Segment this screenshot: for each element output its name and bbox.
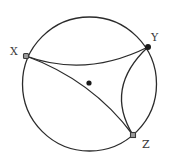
vertex-label-z: Z: [142, 138, 150, 151]
vertex-y-marker: [145, 44, 151, 50]
vertex-z-marker: [131, 133, 136, 138]
vertex-label-x: X: [10, 45, 18, 58]
geodesic-edge-xy: [26, 47, 148, 65]
geodesic-edge-yz: [121, 47, 148, 135]
geodesic-edge-xz: [26, 56, 133, 135]
hyperbolic-triangle-diagram: X Y Z: [0, 0, 169, 166]
center-point: [86, 80, 91, 85]
vertex-x-marker: [24, 54, 29, 59]
vertex-label-y: Y: [150, 31, 159, 44]
